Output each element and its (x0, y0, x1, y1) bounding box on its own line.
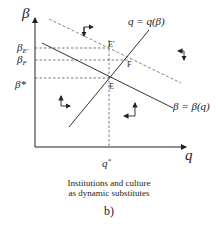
point-e: E (109, 82, 114, 91)
phase-arrow-right (178, 51, 184, 60)
phase-arrow-top (84, 27, 93, 36)
phase-arrow-bottom (124, 103, 135, 116)
q-curve-label: q = q(β) (128, 15, 165, 28)
point-f: F (127, 60, 132, 69)
beta-curve-label: β = β(q) (172, 100, 210, 113)
tick-beta-f: βF (16, 53, 27, 67)
x-axis-label: q (185, 147, 193, 163)
caption-line-2: as dynamic substitutes (0, 188, 218, 198)
y-axis-label: β (21, 5, 30, 21)
shifted-beta-curve (49, 19, 181, 83)
guide-lines (35, 40, 128, 147)
point-e-prime: E' (108, 40, 115, 49)
tick-q-star: q* (102, 157, 112, 169)
phase-arrow-left (61, 96, 70, 106)
tick-beta-star: β* (14, 78, 26, 90)
beta-curve (42, 43, 173, 108)
panel-label: b) (0, 204, 218, 219)
caption-line-1: Institutions and culture (0, 178, 218, 188)
